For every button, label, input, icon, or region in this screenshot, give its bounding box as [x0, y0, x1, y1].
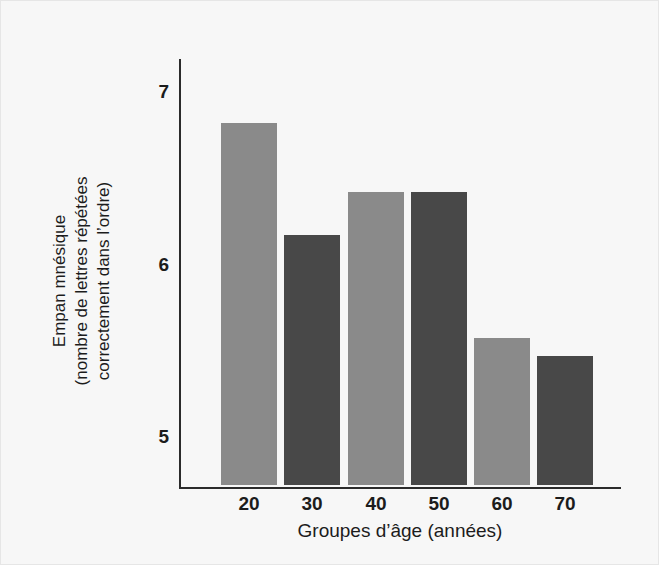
x-tick-label-40: 40	[348, 494, 404, 513]
bar-30	[284, 235, 340, 485]
y-axis-title-line-2: (nombre de lettres répétées	[73, 177, 90, 386]
x-tick-label-30: 30	[284, 494, 340, 513]
x-tick-label-70: 70	[537, 494, 593, 513]
x-tick-label-60: 60	[474, 494, 530, 513]
bar-40	[348, 192, 404, 485]
y-axis-title-line-3: correctement dans l’ordre)	[95, 182, 112, 380]
x-tick-label-20: 20	[221, 494, 277, 513]
y-axis-title: Empan mnésique (nombre de lettres répété…	[45, 121, 125, 441]
bar-50	[411, 192, 467, 485]
y-axis-line	[179, 59, 181, 489]
y-axis-title-line-1: Empan mnésique	[51, 215, 68, 347]
bar-70	[537, 356, 593, 485]
x-tick-label-50: 50	[411, 494, 467, 513]
bar-60	[474, 338, 530, 485]
y-tick-label-6: 6	[135, 255, 169, 274]
x-axis-title: Groupes d’âge (années)	[179, 520, 621, 542]
plot-area: 7 6 5 20 30 40 50 60 70 Groupes d’âge (a…	[1, 1, 658, 564]
x-axis-line	[179, 487, 621, 489]
y-tick-label-7: 7	[135, 82, 169, 101]
y-axis-tick-labels: 7 6 5	[131, 1, 169, 564]
bar-chart-figure: 7 6 5 20 30 40 50 60 70 Groupes d’âge (a…	[0, 0, 659, 565]
bar-20	[221, 123, 277, 485]
y-tick-label-5: 5	[135, 427, 169, 446]
